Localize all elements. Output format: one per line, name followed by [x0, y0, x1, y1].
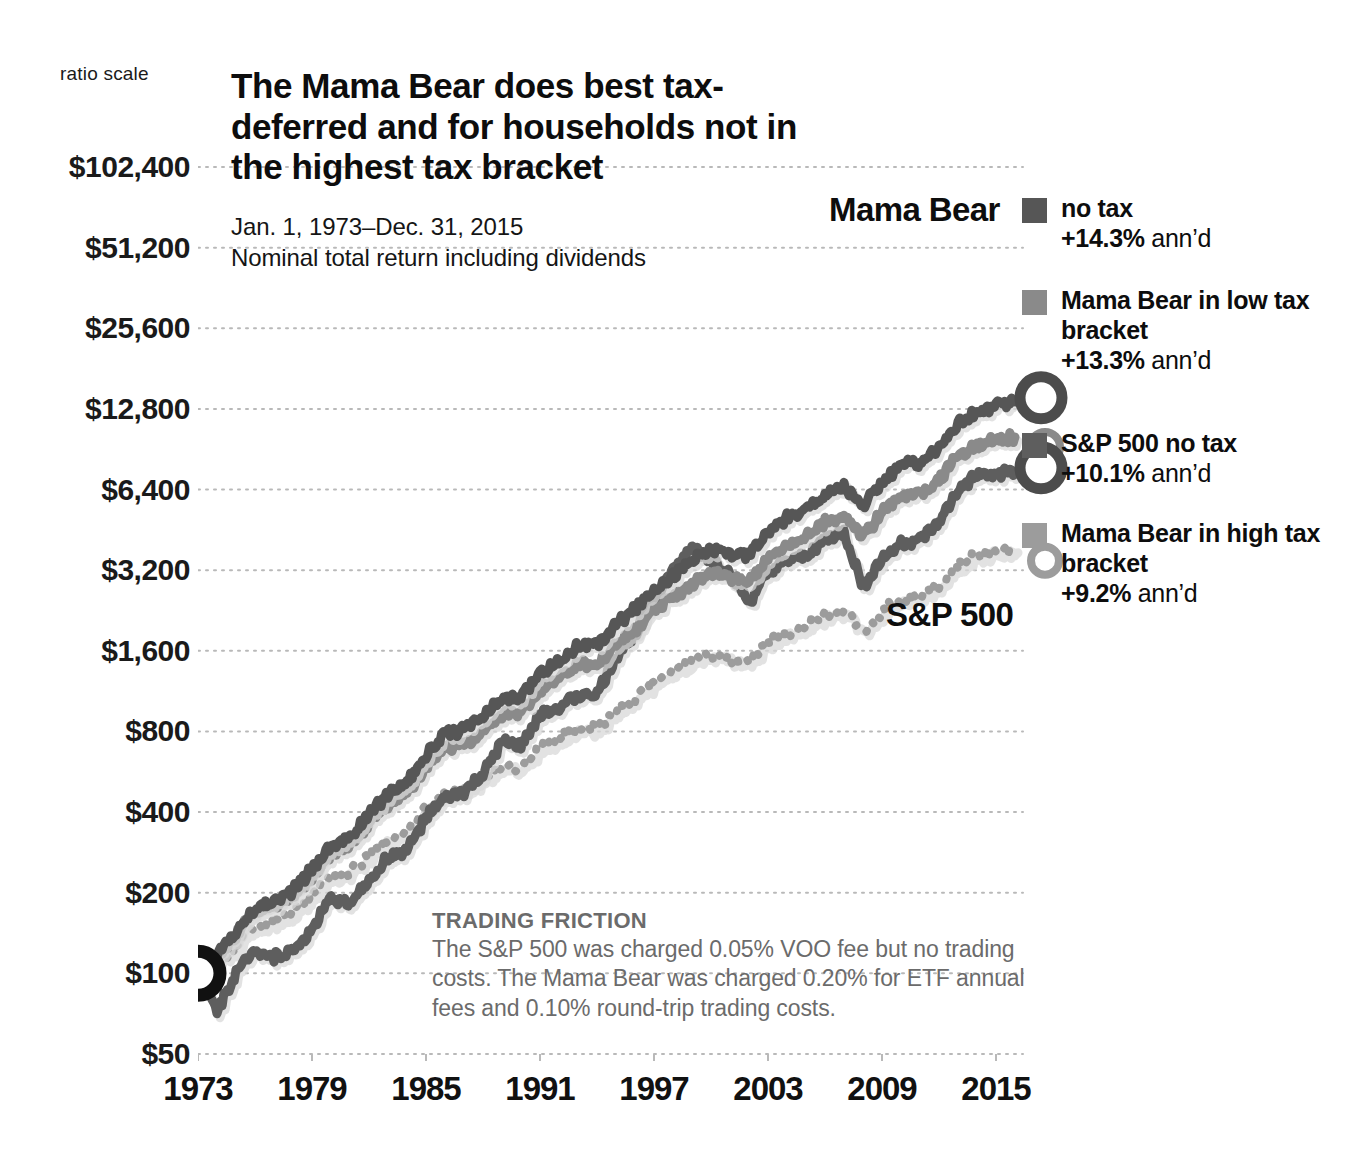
x-axis-labels: 19731979198519911997200320092015 — [0, 1070, 1347, 1130]
y-axis-tick-label: $102,400 — [5, 150, 190, 184]
y-axis-tick-label: $3,200 — [5, 553, 190, 587]
legend-item-4[interactable]: Mama Bear in high tax bracket+9.2% ann’d — [1022, 518, 1342, 608]
x-axis-tick-label: 2003 — [733, 1070, 802, 1108]
trading-friction-note: TRADING FRICTION The S&P 500 was charged… — [432, 908, 1052, 1023]
legend-swatch-icon — [1022, 290, 1047, 315]
chart-subtitle-basis: Nominal total return including dividends — [231, 243, 851, 274]
legend-series-name: S&P 500 no tax — [1061, 429, 1237, 457]
y-axis-tick-label: $51,200 — [5, 231, 190, 265]
legend-swatch-icon — [1022, 433, 1047, 458]
legend-label: no tax+14.3% ann’d — [1061, 193, 1211, 253]
y-axis-tick-label: $6,400 — [5, 473, 190, 507]
legend-label: S&P 500 no tax+10.1% ann’d — [1061, 428, 1237, 488]
series-start-marker — [198, 951, 220, 995]
y-axis-tick-label: $1,600 — [5, 634, 190, 668]
annotation-sp500: S&P 500 — [886, 596, 1013, 634]
legend-label: Mama Bear in low tax bracket+13.3% ann’d — [1061, 285, 1342, 375]
y-axis-tick-label: $25,600 — [5, 311, 190, 345]
chart-subtitle: Jan. 1, 1973–Dec. 31, 2015 Nominal total… — [231, 212, 851, 273]
legend-item-2[interactable]: Mama Bear in low tax bracket+13.3% ann’d — [1022, 285, 1342, 375]
legend-label: Mama Bear in high tax bracket+9.2% ann’d — [1061, 518, 1342, 608]
y-axis-tick-label: $100 — [5, 956, 190, 990]
trading-friction-heading: TRADING FRICTION — [432, 908, 1052, 934]
x-axis-tick-label: 1997 — [619, 1070, 688, 1108]
x-axis-tick-label: 2009 — [847, 1070, 916, 1108]
y-axis-tick-label: $50 — [5, 1037, 190, 1071]
legend-annualized-return: +9.2% — [1061, 579, 1131, 607]
legend-series-name: no tax — [1061, 194, 1133, 222]
y-axis-tick-label: $12,800 — [5, 392, 190, 426]
x-axis-tick-label: 2015 — [961, 1070, 1030, 1108]
legend-swatch-icon — [1022, 523, 1047, 548]
chart-title: The Mama Bear does best tax-deferred and… — [231, 66, 851, 188]
legend-swatch-icon — [1022, 198, 1047, 223]
y-axis-tick-label: $400 — [5, 795, 190, 829]
legend-item-1[interactable]: no tax+14.3% ann’d — [1022, 193, 1211, 253]
x-axis-tick-label: 1985 — [391, 1070, 460, 1108]
x-axis-tick-label: 1979 — [277, 1070, 346, 1108]
y-axis-tick-label: $800 — [5, 714, 190, 748]
legend-annualized-return: +10.1% — [1061, 459, 1145, 487]
legend-annualized-suffix: ann’d — [1131, 579, 1197, 607]
x-axis-tick-label: 1973 — [163, 1070, 232, 1108]
legend-annualized-return: +14.3% — [1061, 224, 1145, 252]
legend-series-name: Mama Bear in high tax bracket — [1061, 519, 1320, 577]
legend-annualized-suffix: ann’d — [1145, 459, 1211, 487]
legend-annualized-return: +13.3% — [1061, 346, 1145, 374]
series-end-marker — [1020, 377, 1062, 419]
y-axis-tick-label: $200 — [5, 876, 190, 910]
legend-annualized-suffix: ann’d — [1145, 224, 1211, 252]
trading-friction-body: The S&P 500 was charged 0.05% VOO fee bu… — [432, 935, 1052, 1023]
chart-subtitle-dates: Jan. 1, 1973–Dec. 31, 2015 — [231, 212, 851, 243]
annotation-mama-bear: Mama Bear — [829, 191, 1000, 229]
legend-annualized-suffix: ann’d — [1145, 346, 1211, 374]
legend-item-3[interactable]: S&P 500 no tax+10.1% ann’d — [1022, 428, 1237, 488]
legend-series-name: Mama Bear in low tax bracket — [1061, 286, 1309, 344]
x-axis-tick-label: 1991 — [505, 1070, 574, 1108]
y-axis-labels: $102,400$51,200$25,600$12,800$6,400$3,20… — [0, 0, 190, 1165]
